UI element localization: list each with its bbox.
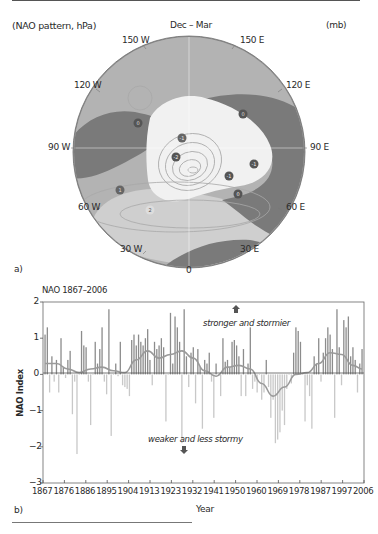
bar bbox=[204, 360, 205, 374]
bar bbox=[81, 331, 82, 374]
annotation-weaker: weaker and less stormy bbox=[148, 434, 243, 444]
bar bbox=[361, 349, 362, 374]
bar bbox=[236, 345, 237, 374]
bar bbox=[177, 327, 178, 374]
bottom-rule bbox=[12, 522, 192, 523]
bar bbox=[209, 353, 210, 375]
bar bbox=[90, 374, 91, 425]
bar bbox=[277, 374, 278, 439]
bar bbox=[124, 374, 125, 387]
bar bbox=[129, 374, 130, 396]
y-axis-ticks bbox=[40, 302, 43, 483]
bar bbox=[138, 335, 139, 375]
x-tick-label: 1987 bbox=[310, 486, 330, 496]
bar bbox=[241, 374, 242, 396]
bar bbox=[341, 374, 342, 385]
bar bbox=[149, 360, 150, 374]
x-tick-label: 1913 bbox=[139, 486, 159, 496]
x-axis-title: Year bbox=[196, 504, 214, 514]
x-tick-label: 1978 bbox=[289, 486, 309, 496]
bar bbox=[69, 351, 70, 375]
bar bbox=[202, 374, 203, 428]
bar bbox=[318, 338, 319, 374]
bar bbox=[95, 342, 96, 375]
bar bbox=[56, 360, 57, 374]
bar bbox=[158, 345, 159, 374]
bar bbox=[179, 342, 180, 375]
bar bbox=[127, 374, 128, 388]
bar bbox=[165, 374, 166, 421]
bar bbox=[261, 374, 262, 399]
y-tick-label: −2 bbox=[29, 441, 39, 451]
x-tick-label: 1876 bbox=[53, 486, 73, 496]
bar bbox=[250, 327, 251, 374]
bar bbox=[268, 374, 269, 387]
bar bbox=[106, 374, 107, 394]
y-tick-label: 0 bbox=[29, 368, 39, 378]
bar bbox=[323, 353, 324, 375]
bar bbox=[298, 331, 299, 374]
bar bbox=[147, 329, 148, 374]
x-tick-label: 1867 bbox=[32, 486, 52, 496]
x-tick-label: 1950 bbox=[225, 486, 245, 496]
bar bbox=[311, 374, 312, 428]
bar bbox=[348, 316, 349, 374]
bar bbox=[282, 374, 283, 410]
bar bbox=[111, 374, 112, 436]
bar bbox=[190, 353, 191, 375]
bar bbox=[133, 335, 134, 375]
bar bbox=[44, 335, 45, 375]
bar bbox=[300, 342, 301, 375]
arrow-up-icon bbox=[232, 305, 240, 313]
bar bbox=[234, 340, 235, 374]
bar bbox=[117, 374, 118, 376]
bar bbox=[154, 342, 155, 375]
bar bbox=[156, 349, 157, 374]
bar bbox=[345, 327, 346, 374]
bar bbox=[161, 338, 162, 374]
bar bbox=[334, 374, 335, 417]
bar bbox=[220, 374, 221, 396]
x-tick-label: 1997 bbox=[332, 486, 352, 496]
arrow-down-icon bbox=[180, 446, 188, 454]
bar-series bbox=[44, 309, 362, 454]
bar bbox=[72, 374, 73, 414]
x-tick-label: 1969 bbox=[267, 486, 287, 496]
x-tick-label: 1904 bbox=[118, 486, 138, 496]
bar bbox=[170, 313, 171, 375]
x-tick-label: 2006 bbox=[353, 486, 373, 496]
bar bbox=[58, 374, 59, 392]
bar bbox=[83, 345, 84, 374]
bar bbox=[65, 374, 66, 378]
bar bbox=[51, 356, 52, 374]
bar bbox=[336, 309, 337, 374]
x-axis-ticks bbox=[43, 480, 364, 483]
bar bbox=[195, 374, 196, 403]
bar bbox=[245, 374, 246, 396]
nao-bar-chart bbox=[0, 0, 378, 534]
bar bbox=[279, 374, 280, 432]
bar bbox=[320, 374, 321, 381]
x-tick-label: 1932 bbox=[182, 486, 202, 496]
bar bbox=[339, 347, 340, 374]
bar bbox=[76, 374, 77, 454]
bar bbox=[131, 340, 132, 374]
bar bbox=[343, 320, 344, 374]
bar bbox=[327, 327, 328, 374]
bar bbox=[352, 347, 353, 374]
bar bbox=[120, 342, 121, 375]
panel-label-b: b) bbox=[14, 505, 23, 515]
bar bbox=[295, 327, 296, 374]
bar bbox=[60, 338, 61, 374]
bar bbox=[67, 360, 68, 374]
x-tick-label: 1960 bbox=[246, 486, 266, 496]
bar bbox=[54, 374, 55, 381]
bar bbox=[142, 345, 143, 374]
x-tick-label: 1886 bbox=[75, 486, 95, 496]
bar bbox=[213, 374, 214, 417]
bar bbox=[99, 349, 100, 374]
bar bbox=[186, 356, 187, 374]
bar bbox=[355, 360, 356, 374]
bar bbox=[188, 374, 189, 387]
bar bbox=[275, 374, 276, 443]
